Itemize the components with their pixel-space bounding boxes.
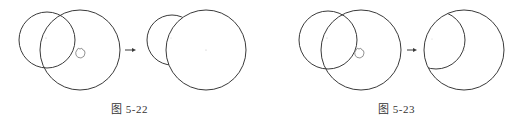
- arrow-icon: [125, 48, 136, 52]
- figure-caption-5-22: 图 5-22: [111, 100, 148, 116]
- small-circle: [19, 12, 75, 68]
- small-circle-trimmed: [407, 11, 465, 69]
- fig-5-23-after: [407, 10, 504, 90]
- center-mark: [463, 49, 464, 50]
- center-mark: [171, 38, 172, 39]
- large-circle: [321, 10, 401, 90]
- small-circle-trimmed: [147, 15, 197, 65]
- fig-5-22-after: [147, 10, 246, 90]
- center-mark: [205, 49, 206, 50]
- figure-caption-5-23: 图 5-23: [378, 100, 415, 116]
- center-mark: [432, 39, 433, 40]
- large-circle: [40, 10, 120, 90]
- center-mark: [45, 37, 46, 38]
- hand-cursor-icon: [76, 48, 85, 58]
- fig-5-22-before: [19, 10, 120, 90]
- hand-cursor-icon: [355, 48, 364, 58]
- diagram-canvas: [0, 0, 521, 120]
- arrow-icon: [407, 48, 417, 52]
- center-mark: [326, 37, 327, 38]
- small-circle: [299, 11, 357, 69]
- fig-5-23-before: [299, 10, 401, 90]
